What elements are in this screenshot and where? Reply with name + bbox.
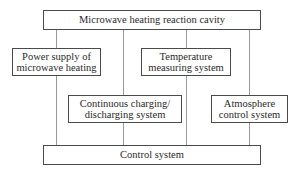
connector-line-charging [123, 29, 124, 145]
power-supply-box: Power supply of microwave heating [12, 48, 101, 76]
connector-line-atmosphere [249, 29, 250, 145]
charging-label-line2: discharging system [85, 109, 166, 121]
atmosphere-label-line1: Atmosphere [224, 98, 275, 110]
control-system-box: Control system [43, 145, 261, 165]
power-supply-label-line1: Power supply of [22, 51, 91, 63]
temperature-system-box: Temperature measuring system [141, 48, 231, 76]
connector-line-temperature [186, 29, 187, 145]
reaction-cavity-label: Microwave heating reaction cavity [79, 14, 225, 26]
charging-system-box: Continuous charging/ discharging system [68, 95, 182, 123]
atmosphere-system-box: Atmosphere control system [211, 95, 288, 123]
power-supply-label-line2: microwave heating [16, 62, 96, 74]
reaction-cavity-box: Microwave heating reaction cavity [43, 10, 261, 30]
control-system-label: Control system [120, 149, 184, 161]
charging-label-line1: Continuous charging/ [80, 98, 171, 110]
connector-line-power [56, 29, 57, 145]
temperature-label-line2: measuring system [148, 62, 224, 74]
temperature-label-line1: Temperature [160, 51, 213, 63]
atmosphere-label-line2: control system [219, 109, 281, 121]
